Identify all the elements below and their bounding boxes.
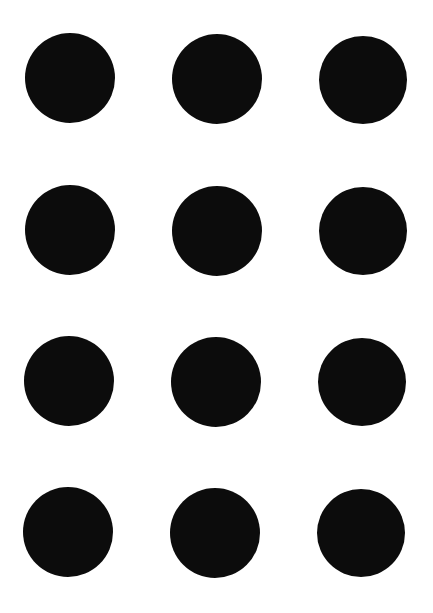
circle-dot-r3-c3 [318,338,406,426]
circle-dot-r4-c3 [317,489,405,577]
dot-grid [0,0,433,613]
circle-dot-r2-c3 [319,187,407,275]
circle-dot-r4-c2 [170,488,260,578]
circle-dot-r1-c1 [25,33,115,123]
circle-dot-r3-c1 [24,336,114,426]
circle-dot-r2-c2 [172,186,262,276]
circle-dot-r2-c1 [25,185,115,275]
circle-dot-r1-c2 [172,34,262,124]
circle-dot-r4-c1 [23,487,113,577]
circle-dot-r1-c3 [319,36,407,124]
circle-dot-r3-c2 [171,337,261,427]
